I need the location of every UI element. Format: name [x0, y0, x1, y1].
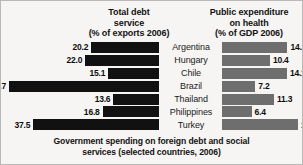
chart-figure: Total debt service (% of exports 2006) P… — [0, 0, 303, 165]
health-bar — [222, 42, 287, 53]
debt-bar-group: 16.8 — [1, 105, 159, 118]
chart-row: 44.7Brazil7.2 — [1, 80, 302, 93]
debt-bar-group: 20.2 — [1, 41, 159, 54]
chart-rows: 20.2Argentina14.222.0Hungary10.415.1Chil… — [1, 41, 302, 131]
left-column-header: Total debt service (% of exports 2006) — [73, 7, 185, 39]
debt-bar-group: 44.7 — [1, 80, 159, 93]
chart-row: 16.8Philippines6.4 — [1, 105, 302, 118]
right-header-line3: (% of GDP 2006) — [197, 28, 301, 39]
debt-value-label: 15.1 — [90, 68, 109, 78]
left-header-line1: Total debt — [73, 7, 185, 18]
debt-value-label: 16.8 — [84, 107, 103, 117]
caption-line1: Government spending on foreign debt and … — [9, 136, 294, 147]
debt-bar — [113, 94, 159, 105]
debt-bar — [85, 55, 159, 66]
debt-bar — [103, 106, 159, 117]
debt-value-label: 13.6 — [95, 94, 114, 104]
debt-bar-group: 15.1 — [1, 67, 159, 80]
debt-bar — [91, 42, 159, 53]
health-bar-group: 14.1 — [222, 67, 302, 80]
health-bar — [222, 119, 298, 130]
debt-value-label: 20.2 — [72, 42, 91, 52]
health-bar-group: 11.3 — [222, 93, 302, 106]
debt-bar-group: 37.5 — [1, 118, 159, 131]
country-label: Hungary — [161, 54, 221, 67]
right-column-header: Public expenditure on health (% of GDP 2… — [197, 7, 301, 39]
debt-bar-group: 13.6 — [1, 93, 159, 106]
chart-row: 13.6Thailand11.3 — [1, 93, 302, 106]
health-bar — [222, 68, 287, 79]
country-label: Chile — [161, 67, 221, 80]
country-label: Thailand — [161, 93, 221, 106]
debt-value-label: 37.5 — [14, 120, 33, 130]
health-bar — [222, 81, 255, 92]
health-value-label: 11.3 — [274, 94, 292, 104]
chart-row: 15.1Chile14.1 — [1, 67, 302, 80]
right-header-line2: on health — [197, 18, 301, 29]
chart-row: 20.2Argentina14.2 — [1, 41, 302, 54]
chart-row: 37.5Turkey16.5 — [1, 118, 302, 131]
health-bar-group: 7.2 — [222, 80, 302, 93]
health-bar — [222, 94, 274, 105]
health-value-label: 6.4 — [252, 107, 266, 117]
right-header-line1: Public expenditure — [197, 7, 301, 18]
debt-value-label: 22.0 — [66, 55, 85, 65]
health-value-label: 7.2 — [255, 81, 269, 91]
debt-bar — [9, 81, 159, 92]
debt-value-label: 44.7 — [0, 81, 9, 91]
chart-caption: Government spending on foreign debt and … — [9, 136, 294, 157]
country-label: Brazil — [161, 80, 221, 93]
country-label: Philippines — [161, 105, 221, 118]
caption-line2: services (selected countries, 2006) — [9, 147, 294, 158]
country-label: Argentina — [161, 41, 221, 54]
health-bar — [222, 106, 252, 117]
left-header-line3: (% of exports 2006) — [73, 28, 185, 39]
health-value-label: 16.5 — [298, 120, 303, 130]
health-bar — [222, 55, 270, 66]
health-bar-group: 10.4 — [222, 54, 302, 67]
debt-bar-group: 22.0 — [1, 54, 159, 67]
country-label: Turkey — [161, 118, 221, 131]
health-value-label: 14.2 — [287, 42, 303, 52]
health-value-label: 14.1 — [287, 68, 303, 78]
debt-bar — [33, 119, 159, 130]
health-bar-group: 14.2 — [222, 41, 302, 54]
health-bar-group: 16.5 — [222, 118, 302, 131]
chart-row: 22.0Hungary10.4 — [1, 54, 302, 67]
left-header-line2: service — [73, 18, 185, 29]
debt-bar — [108, 68, 159, 79]
health-bar-group: 6.4 — [222, 105, 302, 118]
health-value-label: 10.4 — [270, 55, 289, 65]
